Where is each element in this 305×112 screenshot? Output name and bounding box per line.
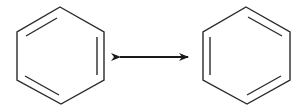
- diagram-canvas: Benzene resonance structures: [0, 0, 305, 112]
- double-bond-lower-left: [25, 76, 59, 95]
- double-bond-lower-right: [247, 76, 281, 95]
- double-bond-upper-left: [26, 18, 57, 36]
- hexagon-outline-left: [17, 7, 104, 104]
- benzene-ring-left: [17, 7, 104, 104]
- benzene-ring-right: [203, 7, 290, 104]
- double-bond-upper-right: [248, 17, 282, 36]
- benzene-resonance-diagram: [0, 0, 305, 112]
- hexagon-outline-right: [203, 7, 290, 104]
